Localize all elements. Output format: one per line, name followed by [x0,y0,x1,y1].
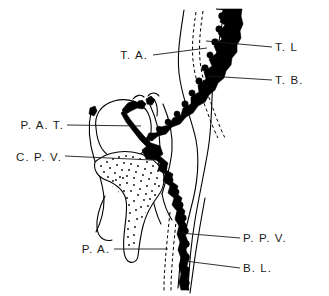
pulmonary-artery-dashed-lower [164,212,177,292]
label-t-a: T. A. [120,49,148,61]
diagram-canvas: T. A. T. L T. B. P. A. T. C. P. V. P. A.… [0,0,329,296]
label-p-a: P. A. [82,243,110,255]
label-p-a-t: P. A. T. [20,119,64,131]
leader-t-a [153,48,207,55]
label-b-l: B. L. [243,262,272,274]
bronchial-lumen-line [190,198,205,293]
anatomical-figure: T. A. T. L T. B. P. A. T. C. P. V. P. A.… [0,0,329,296]
label-t-l: T. L [275,41,298,53]
leader-lines [65,41,272,268]
left-margin-arcs [89,106,97,116]
label-p-p-v: P. P. V. [243,232,287,244]
label-t-b: T. B. [275,74,304,86]
leader-p-p-v [180,233,240,238]
label-c-p-v: C. P. V. [16,151,62,163]
